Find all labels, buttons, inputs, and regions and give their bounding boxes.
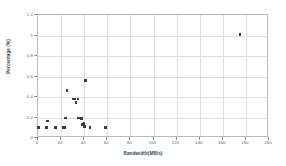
x-axis-tick-label: 180 <box>241 140 248 145</box>
y-axis-tick <box>34 96 37 97</box>
plot-area <box>37 14 268 137</box>
data-point <box>83 122 86 125</box>
y-axis-tick <box>34 55 37 56</box>
data-point <box>80 117 83 120</box>
x-axis-title: Bandwidth(MB/s) <box>0 151 286 156</box>
x-axis-tick-label: 120 <box>172 140 179 145</box>
data-point <box>64 117 67 120</box>
data-point <box>77 98 80 101</box>
data-point <box>54 126 57 129</box>
y-axis-title: Percentage (%) <box>6 22 11 92</box>
data-point <box>75 101 78 104</box>
y-axis-tick-label: 0.4 <box>27 94 33 99</box>
data-point <box>66 89 69 92</box>
data-point <box>89 126 92 129</box>
x-axis-tick-label: 20 <box>58 140 63 145</box>
y-axis-tick <box>34 137 37 138</box>
y-axis-tick <box>34 35 37 36</box>
x-axis-tick-label: 100 <box>149 140 156 145</box>
x-axis-tick-label: 140 <box>195 140 202 145</box>
x-axis-tick-label: 160 <box>218 140 225 145</box>
y-axis-tick-label: 1 <box>31 32 34 37</box>
y-axis-tick-label: 0.2 <box>27 114 33 119</box>
y-axis-tick-label: 1.2 <box>27 12 33 17</box>
x-axis-tick-label: 200 <box>264 140 271 145</box>
y-axis-tick-label: 0 <box>31 135 34 140</box>
y-gridline <box>38 118 267 119</box>
y-axis-tick-label: 0.8 <box>27 53 33 58</box>
y-axis-tick <box>34 14 37 15</box>
data-point <box>239 33 242 36</box>
y-axis-tick <box>34 76 37 77</box>
x-axis-tick-label: 60 <box>104 140 109 145</box>
scatter-chart-figure: Bandwidth(MB/s) Percentage (%) 020406080… <box>0 0 286 166</box>
data-point <box>84 79 87 82</box>
y-axis-tick <box>34 117 37 118</box>
x-axis-tick-label: 80 <box>127 140 132 145</box>
data-point <box>104 126 107 129</box>
y-gridline <box>38 36 267 37</box>
y-gridline <box>38 77 267 78</box>
data-point <box>64 126 67 129</box>
data-point <box>83 125 86 128</box>
data-point <box>37 126 40 129</box>
y-gridline <box>38 56 267 57</box>
x-axis-tick-label: 0 <box>36 140 39 145</box>
x-axis-tick-label: 40 <box>81 140 86 145</box>
y-axis-tick-label: 0.6 <box>27 73 33 78</box>
data-point <box>45 126 48 129</box>
data-point <box>46 120 49 123</box>
